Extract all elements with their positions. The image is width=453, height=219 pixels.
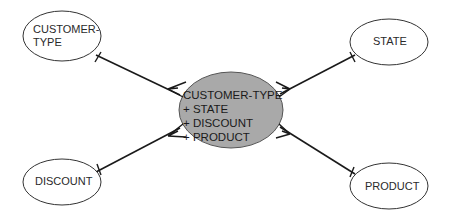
center-label-line: + STATE (183, 102, 282, 116)
entity-label-line: DISCOUNT (35, 175, 92, 188)
entity-state: STATE (373, 35, 407, 48)
entity-label-line: STATE (373, 35, 407, 48)
connector-product (280, 127, 355, 174)
entity-product: PRODUCT (365, 180, 419, 193)
entity-discount: DISCOUNT (35, 175, 92, 188)
entity-label-line: CUSTOMER- (33, 23, 99, 36)
connector-state (280, 55, 355, 94)
entity-customer-type: CUSTOMER- TYPE (33, 23, 99, 49)
center-entity: CUSTOMER-TYPE + STATE + DISCOUNT + PRODU… (183, 88, 282, 144)
center-label-line: + PRODUCT (183, 130, 282, 144)
center-label-line: CUSTOMER-TYPE (183, 88, 282, 102)
entity-label-line: PRODUCT (365, 180, 419, 193)
entity-label-line: TYPE (33, 36, 99, 49)
er-diagram: CUSTOMER- TYPE STATE DISCOUNT PRODUCT CU… (0, 0, 453, 219)
center-label-line: + DISCOUNT (183, 116, 282, 130)
connector-customer-type (96, 55, 180, 95)
connector-discount (96, 128, 180, 172)
